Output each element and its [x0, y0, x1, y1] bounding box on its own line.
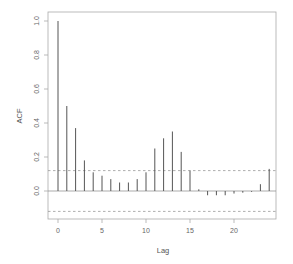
- plot-frame: [48, 12, 276, 219]
- y-tick-label: 0.0: [33, 186, 40, 196]
- x-tick-label: 0: [56, 227, 60, 234]
- y-tick-label: 0.8: [33, 50, 40, 60]
- y-tick-label: 0.2: [33, 152, 40, 162]
- y-tick-label: 0.4: [33, 118, 40, 128]
- plot-border: [48, 12, 276, 219]
- x-axis-label: Lag: [157, 246, 170, 255]
- y-tick-label: 0.6: [33, 84, 40, 94]
- x-tick-label: 20: [230, 227, 238, 234]
- x-tick-label: 5: [100, 227, 104, 234]
- x-axis: 05101520: [56, 219, 238, 234]
- confidence-bounds: [48, 171, 276, 212]
- y-tick-label: 1.0: [33, 16, 40, 26]
- acf-chart: 0.00.20.40.60.81.0 05101520 Lag ACF: [0, 0, 293, 264]
- y-axis: 0.00.20.40.60.81.0: [33, 16, 48, 196]
- x-tick-label: 15: [186, 227, 194, 234]
- acf-bars: [58, 21, 269, 195]
- x-tick-label: 10: [142, 227, 150, 234]
- y-axis-label: ACF: [15, 108, 24, 123]
